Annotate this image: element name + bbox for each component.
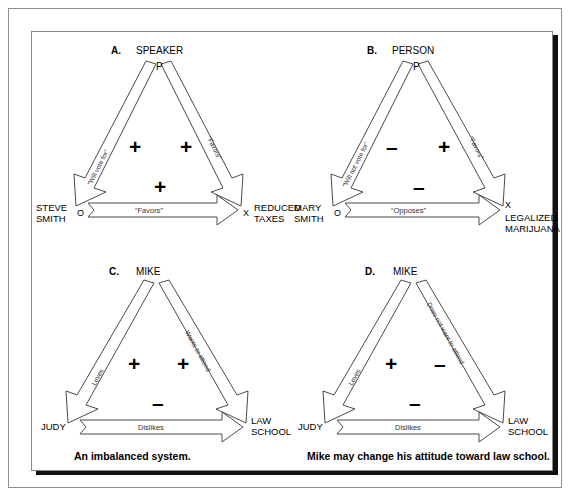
panel-b-right-vertex: LEGALIZED MARIJUANA bbox=[505, 212, 560, 234]
right-edge-arrow bbox=[161, 61, 243, 206]
panel-a-right-sign: + bbox=[180, 140, 192, 154]
panel-a-left-mark: O bbox=[77, 208, 84, 218]
panel-d-right-vertex: LAW SCHOOL bbox=[508, 415, 548, 437]
panel-b-left-mark: O bbox=[334, 208, 341, 218]
panel-d-arrows bbox=[293, 254, 554, 472]
panel-c-left-sign: + bbox=[128, 357, 140, 371]
panel-d-right-sign: – bbox=[434, 357, 446, 371]
panel-a: A. SPEAKER P “Will vote for” “Favors” + … bbox=[32, 32, 293, 260]
panel-d-apex-label: MIKE bbox=[393, 266, 417, 277]
bottom-edge-arrow bbox=[88, 195, 238, 225]
panel-b-right-sign: + bbox=[438, 140, 450, 154]
figure-panel: A. SPEAKER P “Will vote for” “Favors” + … bbox=[31, 31, 553, 471]
right-edge-arrow bbox=[418, 61, 505, 206]
panel-b-apex-mark: P bbox=[413, 61, 420, 72]
panel-c-bottom-sign: – bbox=[152, 396, 164, 410]
panel-c-caption: An imbalanced system. bbox=[74, 450, 191, 462]
panel-a-left-vertex: STEVE SMITH bbox=[36, 202, 67, 224]
panel-b-letter: B. bbox=[367, 45, 377, 56]
right-edge-arrow bbox=[159, 280, 248, 423]
panel-d-left-sign: + bbox=[385, 357, 397, 371]
panel-c-arrows bbox=[32, 254, 293, 472]
left-edge-arrow bbox=[74, 61, 156, 206]
panel-a-letter: A. bbox=[111, 45, 121, 56]
panel-a-apex-label: SPEAKER bbox=[136, 45, 183, 56]
panel-a-left-sign: + bbox=[129, 140, 141, 154]
panel-b-left-vertex: MARY SMITH bbox=[294, 202, 324, 224]
panel-b-left-sign: – bbox=[386, 140, 398, 154]
panel-c-right-vertex: LAW SCHOOL bbox=[251, 415, 291, 437]
panel-c-letter: C. bbox=[109, 266, 119, 277]
left-edge-arrow bbox=[66, 280, 154, 423]
panel-a-right-mark: X bbox=[243, 208, 249, 218]
panel-c-right-sign: + bbox=[177, 357, 189, 371]
panel-a-apex-mark: P bbox=[156, 61, 163, 72]
panel-c-apex-label: MIKE bbox=[136, 266, 160, 277]
panel-c-left-vertex: JUDY bbox=[41, 421, 66, 432]
panel-b-bottom-sign: – bbox=[413, 180, 425, 194]
panel-c: C. MIKE Loves Wants to attend + + – Disl… bbox=[32, 254, 293, 472]
panel-d-left-vertex: JUDY bbox=[298, 421, 323, 432]
left-edge-arrow bbox=[323, 280, 411, 423]
panel-d: D. MIKE Loves Does not want to attend + … bbox=[293, 254, 554, 472]
panel-c-bottom-edge-label: Dislikes bbox=[138, 423, 164, 432]
panel-b: B. PERSON P “Will not vote for” “Favors”… bbox=[293, 32, 554, 260]
outer-frame: A. SPEAKER P “Will vote for” “Favors” + … bbox=[8, 8, 562, 488]
panel-d-bottom-sign: – bbox=[409, 396, 421, 410]
panel-a-bottom-sign: + bbox=[154, 180, 166, 194]
panel-d-bottom-edge-label: Dislikes bbox=[395, 423, 421, 432]
panel-d-letter: D. bbox=[365, 266, 375, 277]
panel-b-right-mark: X bbox=[505, 200, 511, 210]
panel-a-bottom-edge-label: “Favors” bbox=[135, 206, 163, 215]
panel-b-apex-label: PERSON bbox=[392, 45, 434, 56]
panel-b-bottom-edge-label: “Opposes” bbox=[391, 206, 426, 215]
panel-d-caption: Mike may change his attitude toward law … bbox=[307, 450, 550, 462]
